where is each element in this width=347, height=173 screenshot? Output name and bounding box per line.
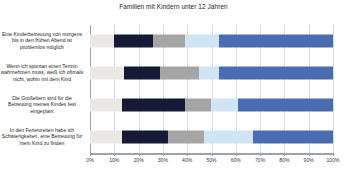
bar-segment xyxy=(199,67,218,80)
bar-segment xyxy=(90,67,124,80)
gridline-100 xyxy=(333,25,334,153)
bar-segment xyxy=(219,35,333,48)
bar-series-group xyxy=(90,25,333,153)
bar-segment xyxy=(153,35,185,48)
tick-label-40: 40% xyxy=(182,157,192,163)
tick-label-0: 0% xyxy=(86,157,93,163)
bar-segment xyxy=(168,131,204,144)
bar-row xyxy=(90,131,333,144)
bar-segment xyxy=(238,99,333,112)
bar-segment xyxy=(90,131,122,144)
bar-segment xyxy=(122,131,168,144)
tick-label-50: 50% xyxy=(206,157,216,163)
tick-label-60: 60% xyxy=(231,157,241,163)
bar-segment xyxy=(211,99,238,112)
bar-segment xyxy=(122,99,185,112)
tick-mark-60 xyxy=(236,153,237,156)
tick-label-80: 80% xyxy=(279,157,289,163)
bar-segment xyxy=(219,67,333,80)
bar-segment xyxy=(160,67,199,80)
category-label: In den Ferienzeiten habe ich Schwierigke… xyxy=(0,127,84,146)
tick-mark-10 xyxy=(114,153,115,156)
tick-mark-30 xyxy=(163,153,164,156)
bar-segment xyxy=(90,35,114,48)
tick-label-100: 100% xyxy=(326,157,339,163)
chart-container: Familien mit Kindern unter 12 Jahren Ein… xyxy=(0,0,347,173)
bar-segment xyxy=(185,99,212,112)
x-axis-ticks: 0%10%20%30%40%50%60%70%80%90%100% xyxy=(90,153,333,171)
chart-title: Familien mit Kindern unter 12 Jahren xyxy=(0,3,347,10)
tick-mark-0 xyxy=(90,153,91,156)
category-axis-labels: Eine Kinderbetreuung von morgens bis in … xyxy=(0,25,88,153)
bar-row xyxy=(90,35,333,48)
category-label: Wenn ich spontan einen Termin wahrnehmen… xyxy=(0,63,84,82)
tick-mark-40 xyxy=(187,153,188,156)
category-label: Eine Kinderbetreuung von morgens bis in … xyxy=(0,31,84,50)
bar-segment xyxy=(124,67,160,80)
tick-label-10: 10% xyxy=(109,157,119,163)
bar-row xyxy=(90,67,333,80)
bar-segment xyxy=(253,131,333,144)
bar-segment xyxy=(185,35,219,48)
tick-mark-20 xyxy=(139,153,140,156)
bar-row xyxy=(90,99,333,112)
tick-label-30: 30% xyxy=(158,157,168,163)
tick-label-90: 90% xyxy=(304,157,314,163)
tick-mark-50 xyxy=(212,153,213,156)
tick-mark-70 xyxy=(260,153,261,156)
bar-segment xyxy=(204,131,253,144)
bar-segment xyxy=(114,35,153,48)
tick-mark-100 xyxy=(333,153,334,156)
bar-segment xyxy=(90,99,122,112)
plot-area xyxy=(90,25,333,153)
tick-label-20: 20% xyxy=(133,157,143,163)
tick-label-70: 70% xyxy=(255,157,265,163)
category-label: Die Großeltern sind für die Betreuung me… xyxy=(0,95,84,114)
tick-mark-90 xyxy=(309,153,310,156)
tick-mark-80 xyxy=(284,153,285,156)
